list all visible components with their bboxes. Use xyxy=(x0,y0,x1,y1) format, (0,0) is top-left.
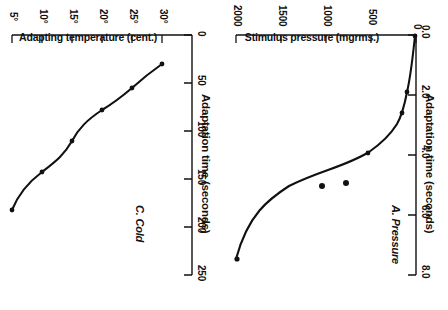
pressure-y-tick-1000: 1000 xyxy=(322,5,333,26)
cold-y-tick-15: 15° xyxy=(68,9,79,24)
cold-x-tick-150: 150 xyxy=(196,169,207,185)
cold-x-tick-250: 250 xyxy=(196,265,207,281)
pressure-y-tick-2000: 2000 xyxy=(232,5,243,26)
pressure-x-tick-8: 8.0 xyxy=(420,265,431,278)
pressure-y-tick-0: 0 xyxy=(412,24,423,29)
pressure-data-curve xyxy=(236,36,415,259)
cold-panel-label: C. Cold xyxy=(134,205,146,242)
cold-x-axis-title: Adaptation time (seconds) xyxy=(200,94,212,233)
chart-panel-pressure: Adaptation time (seconds) 0.0 2.0 4.0 6.… xyxy=(226,9,432,301)
cold-y-tick-10: 10° xyxy=(38,9,49,24)
cold-y-tick-25: 25° xyxy=(128,9,139,24)
cold-x-tick-100: 100 xyxy=(196,121,207,137)
cold-plot-area: Adaptation time (seconds) 0 50 100 150 2… xyxy=(2,9,208,301)
cold-y-tick-5: 5° xyxy=(8,12,19,21)
cold-data-points xyxy=(10,62,165,213)
pressure-y-axis-title: Stimulus pressure (mgrms.) xyxy=(232,31,392,43)
pressure-x-tick-4: 4.0 xyxy=(420,145,431,158)
cold-x-tick-50: 50 xyxy=(196,75,207,86)
cold-plot-svg xyxy=(2,9,208,301)
pressure-x-tick-2: 2.0 xyxy=(420,85,431,98)
pressure-y-tick-500: 500 xyxy=(367,9,378,25)
cold-data-curve xyxy=(12,64,162,210)
cold-y-axis-title: Adapting temperature (cent.) xyxy=(8,31,168,43)
pressure-x-ticks xyxy=(408,35,416,275)
cold-x-ticks xyxy=(184,35,192,275)
chart-panel-cold: Adaptation time (seconds) 0 50 100 150 2… xyxy=(2,9,208,301)
pressure-y-tick-1500: 1500 xyxy=(277,5,288,26)
cold-y-tick-20: 20° xyxy=(98,9,109,24)
cold-y-tick-30: 30° xyxy=(158,9,169,24)
pressure-plot-area: Adaptation time (seconds) 0.0 2.0 4.0 6.… xyxy=(226,9,432,301)
cold-x-tick-200: 200 xyxy=(196,217,207,233)
pressure-panel-label: A. Pressure xyxy=(390,205,402,264)
figure-canvas: Adaptation time (seconds) 0 50 100 150 2… xyxy=(0,0,448,310)
cold-x-tick-0: 0 xyxy=(196,31,207,36)
pressure-x-tick-6: 6.0 xyxy=(420,205,431,218)
